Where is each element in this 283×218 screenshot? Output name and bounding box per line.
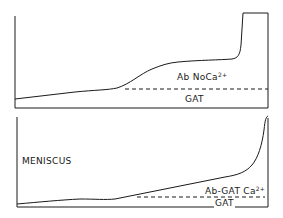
top-species-superscript: 2+ [218, 71, 227, 78]
top-species-text: Ab NoCa [177, 72, 218, 82]
bottom-baseline-label: GAT [214, 199, 235, 208]
top-panel [15, 13, 268, 108]
top-baseline-label: GAT [185, 95, 204, 104]
top-species-label: Ab NoCa2+ [177, 72, 227, 82]
meniscus-label: MENISCUS [22, 157, 72, 166]
top-trace [15, 13, 268, 108]
bottom-species-label: Ab-GAT Ca2+ [205, 186, 265, 196]
bottom-species-superscript: 2+ [256, 185, 265, 192]
bottom-species-text: Ab-GAT Ca [205, 186, 256, 196]
